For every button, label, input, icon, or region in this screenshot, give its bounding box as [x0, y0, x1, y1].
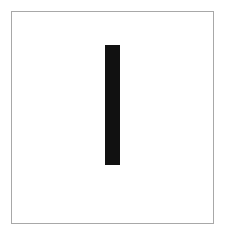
plot-area [12, 12, 213, 223]
figure-root [0, 0, 227, 235]
plot-frame [11, 11, 214, 224]
bar-1[interactable] [105, 45, 120, 165]
